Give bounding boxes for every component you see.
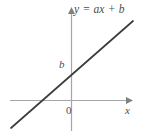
origin-label: 0 xyxy=(66,105,72,116)
x-axis-arrowhead-icon xyxy=(126,97,133,104)
linear-function-graph: y = ax + b b 0 x xyxy=(0,0,144,137)
function-equation-label: y = ax + b xyxy=(74,4,125,16)
x-axis-label: x xyxy=(125,105,130,116)
y-intercept-label: b xyxy=(59,59,65,70)
graph-canvas xyxy=(0,0,144,137)
